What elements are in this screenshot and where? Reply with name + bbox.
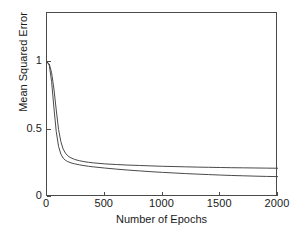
- y-tick-mark: [47, 196, 51, 197]
- x-tick-mark: [162, 192, 163, 196]
- y-tick-mark: [47, 61, 51, 62]
- y-axis-label: Mean Squared Error: [17, 0, 29, 132]
- x-tick-label: 1000: [137, 197, 187, 209]
- x-tick-mark: [277, 192, 278, 196]
- plot-svg: [47, 13, 278, 197]
- series-line-curve-1: [47, 62, 278, 168]
- x-tick-mark: [219, 192, 220, 196]
- y-tick-mark: [47, 129, 51, 130]
- x-tick-label: 1500: [194, 197, 244, 209]
- series-line-curve-2: [47, 62, 278, 177]
- x-tick-label: 2000: [252, 197, 301, 209]
- x-tick-mark: [104, 192, 105, 196]
- plot-area: [46, 12, 277, 196]
- x-tick-label: 500: [79, 197, 129, 209]
- y-tick-label: 0: [8, 189, 42, 201]
- x-axis-label: Number of Epochs: [46, 213, 277, 225]
- figure-canvas: 0500100015002000 00.51 Number of Epochs …: [0, 0, 301, 237]
